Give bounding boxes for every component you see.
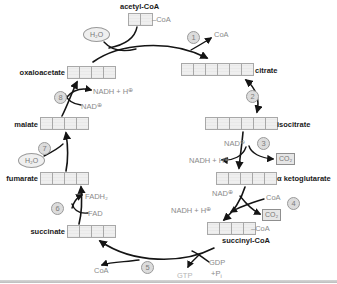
arrow-step6-fad-in: [72, 204, 88, 213]
isocitrate-molecule: [205, 117, 278, 130]
carbon-cell: [76, 172, 89, 185]
step4-nadh-label: NADH + H⊕: [171, 205, 211, 215]
succinyl-coa-attachment: –CoA: [251, 224, 270, 233]
step8-nad-label: NAD⊕: [81, 101, 102, 111]
carbon-cell: [103, 225, 116, 238]
carbon-cell: [103, 66, 116, 79]
carbon-cell: [264, 172, 277, 185]
cycle-arrows: [0, 0, 337, 284]
succinyl-coa-molecule: [207, 222, 256, 235]
citrate-molecule: [181, 63, 254, 76]
coa-text: CoA: [156, 15, 171, 24]
arrow-step5-gdp-in: [192, 251, 209, 262]
step-1-badge: 1: [187, 31, 200, 44]
citric-acid-cycle-diagram: acetyl-CoA –CoA H₂O 1 CoA oxaloacetate c…: [0, 0, 337, 284]
arrow-step6-main: [79, 187, 82, 224]
step4-co2-box: CO₂: [262, 209, 281, 221]
arrow-step7-main: [66, 133, 68, 171]
pi-subscript: i: [220, 273, 221, 279]
plus-charge-icon: ⊕: [240, 139, 245, 145]
arrow-step4-co2-out: [240, 196, 260, 214]
malate-molecule: [40, 117, 89, 130]
carbon-cell: [241, 63, 254, 76]
plus-charge-icon: ⊕: [206, 206, 211, 212]
plus-charge-icon: ⊕: [228, 189, 233, 195]
citrate-label: citrate: [255, 66, 278, 75]
succinate-molecule: [67, 225, 116, 238]
step-3-badge: 3: [257, 137, 270, 150]
step3-nad-label: NAD⊕: [224, 138, 245, 148]
oxaloacetate-molecule: [67, 66, 116, 79]
acetyl-coa-label: acetyl-CoA: [120, 2, 159, 11]
arrow-step5-coa-out: [102, 260, 139, 265]
oxaloacetate-label: oxaloacetate: [20, 68, 65, 77]
step3-co2-box: CO₂: [276, 153, 295, 165]
nad-text: NAD: [81, 102, 97, 111]
step3-nadh-label: NADH + H⊕: [189, 155, 229, 165]
coa-text: CoA: [255, 224, 270, 233]
alpha-ketoglutarate-molecule: [216, 172, 277, 185]
malate-label: malate: [14, 120, 38, 129]
alpha-ketoglutarate-label: α ketoglutarate: [277, 174, 331, 183]
carbon-cell: [76, 117, 89, 130]
plus-charge-icon: ⊕: [224, 156, 229, 162]
nadh-text: NADH + H: [189, 156, 224, 165]
step-5-badge: 5: [141, 261, 154, 274]
succinyl-coa-label: succinyl-CoA: [222, 236, 270, 245]
step6-fad-label: FAD: [88, 209, 103, 218]
pi-text: +P: [211, 269, 220, 278]
step6-fadh2-label: FADH₂: [85, 192, 108, 201]
step5-gtp-label: GTP: [177, 271, 192, 280]
nadh-text: NADH + H: [93, 87, 128, 96]
step-2-badge: 2: [246, 90, 259, 103]
step-8-badge: 8: [54, 91, 67, 104]
nad-text: NAD: [212, 189, 228, 198]
arrow-acetyl-feed: [109, 27, 137, 48]
nad-text: NAD: [224, 139, 240, 148]
fumarate-label: fumarate: [6, 174, 38, 183]
step-4-badge: 4: [287, 197, 300, 210]
nadh-text: NADH + H: [171, 206, 206, 215]
step-6-badge: 6: [51, 202, 64, 215]
acetyl-coa-molecule: [128, 13, 153, 26]
h2o-oval-left: H₂O: [18, 153, 45, 168]
step4-coa-label: CoA: [266, 193, 281, 202]
step5-gdp-label: GDP: [209, 258, 225, 267]
isocitrate-label: isocitrate: [277, 120, 310, 129]
h2o-oval-top: H₂O: [83, 27, 110, 42]
plus-charge-icon: ⊕: [97, 102, 102, 108]
step4-nad-label: NAD⊕: [212, 188, 233, 198]
step-7-badge: 7: [38, 142, 51, 155]
step5-coa-label: CoA: [94, 266, 109, 275]
step1-coa-label: CoA: [214, 30, 229, 39]
succinate-label: succinate: [30, 227, 65, 236]
plus-charge-icon: ⊕: [128, 87, 133, 93]
fumarate-molecule: [40, 172, 89, 185]
acetyl-coa-attachment: –CoA: [152, 15, 171, 24]
step5-pi-label: +Pi: [211, 269, 222, 281]
step8-nadh-label: NADH + H⊕: [93, 86, 133, 96]
